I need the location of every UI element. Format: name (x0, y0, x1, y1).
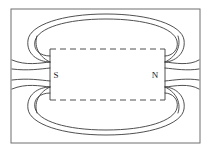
diagram-background (0, 0, 211, 152)
field-diagram-canvas: S N (0, 0, 211, 152)
south-pole-label: S (53, 70, 58, 80)
magnetic-field-diagram: S N (0, 0, 211, 152)
north-pole-label: N (152, 70, 159, 80)
